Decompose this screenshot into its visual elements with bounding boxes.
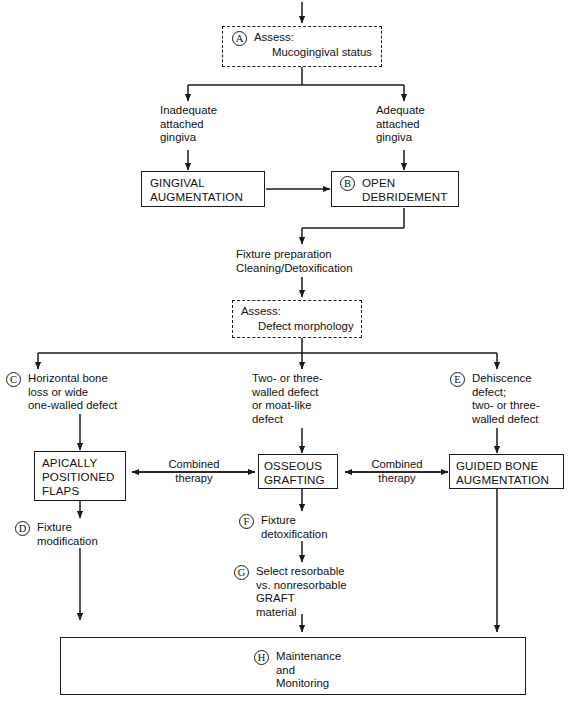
step-badge-b: B (340, 176, 355, 191)
adequate-attached-gingiva-label: Adequate attached gingiva (376, 104, 425, 145)
fixture-modification-label: Fixture modification (37, 521, 98, 548)
step-badge-g: G (234, 565, 249, 580)
step-badge-c: C (6, 372, 21, 387)
step-badge-e: E (450, 372, 465, 387)
step-badge-h: H (254, 650, 269, 665)
maintenance-monitoring-label: Maintenance and Monitoring (276, 650, 341, 691)
assess-defect-line2: Defect morphology (258, 320, 354, 334)
osseous-grafting-label: OSSEOUS GRAFTING (264, 459, 325, 487)
horizontal-bone-loss-label: Horizontal bone loss or wide one-walled … (28, 372, 117, 413)
step-badge-f: F (239, 514, 254, 529)
assess-mucogingival-line2: Mucogingival status (272, 46, 372, 60)
two-three-walled-defect-label: Two- or three- walled defect or moat-lik… (252, 372, 323, 426)
guided-bone-augmentation-label: GUIDED BONE AUGMENTATION (456, 459, 549, 487)
fixture-detoxification-label: Fixture detoxification (261, 514, 328, 541)
apically-positioned-flaps-label: APICALLY POSITIONED FLAPS (42, 456, 115, 498)
fixture-preparation-label: Fixture preparation Cleaning/Detoxificat… (236, 248, 353, 275)
combined-therapy-left-label: Combined therapy (146, 458, 242, 485)
open-debridement-label: OPEN DEBRIDEMENT (362, 176, 447, 204)
dehiscence-defect-label: Dehiscence defect; two- or three- walled… (472, 372, 540, 426)
assess-mucogingival-line1: Assess: (254, 31, 294, 45)
step-badge-d: D (15, 521, 30, 536)
combined-therapy-right-label: Combined therapy (351, 458, 443, 485)
assess-defect-line1: Assess: (241, 305, 281, 319)
select-graft-material-label: Select resorbable vs. nonresorbable GRAF… (256, 565, 347, 619)
flowchart-canvas: A Assess: Mucogingival status Inadequate… (0, 0, 574, 704)
inadequate-attached-gingiva-label: Inadequate attached gingiva (160, 104, 217, 145)
gingival-augmentation-label: GINGIVAL AUGMENTATION (150, 176, 243, 204)
step-badge-a: A (232, 31, 247, 46)
